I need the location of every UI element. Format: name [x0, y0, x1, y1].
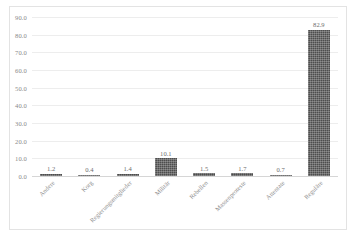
bar-value-label: 1.5 — [200, 165, 208, 172]
x-axis-tick-label: Andere — [38, 179, 56, 197]
y-axis-tick-label: 20.0 — [15, 137, 27, 144]
x-axis-label-slot: Massenproteste — [223, 176, 261, 230]
y-axis-tick-label: 40.0 — [15, 102, 27, 109]
bar[interactable] — [308, 30, 330, 176]
y-axis-tick-label: 0.0 — [18, 173, 27, 180]
x-axis-tick-label: Korg — [80, 179, 94, 193]
bar-value-label: 0.7 — [277, 166, 285, 173]
y-axis-tick-label: 90.0 — [15, 14, 27, 21]
bar-chart-figure: 0.010.020.030.040.050.060.070.080.090.0 … — [0, 0, 356, 242]
y-axis-tick-label: 30.0 — [15, 120, 27, 127]
y-axis-tick-label: 80.0 — [15, 31, 27, 38]
bar-value-label: 1.7 — [238, 165, 246, 172]
bar-value-label: 0.4 — [85, 166, 93, 173]
x-axis-label-slot: Militär — [147, 176, 185, 230]
bar-group[interactable]: 0.4 — [70, 17, 108, 176]
x-axis-label-slot: Attentate — [262, 176, 300, 230]
x-axis-label-slot: Regierungsmitglieder — [109, 176, 147, 230]
plot-area: 1.20.41.410.11.51.70.782.9 — [32, 17, 338, 176]
x-axis-category-labels: AndereKorgRegierungsmitgliederMilitärReb… — [32, 176, 338, 230]
bar-value-label: 1.4 — [124, 165, 132, 172]
y-axis-tick-label: 60.0 — [15, 67, 27, 74]
y-axis: 0.010.020.030.040.050.060.070.080.090.0 — [0, 17, 30, 176]
bar[interactable] — [155, 158, 177, 176]
x-axis-tick-label: Militär — [153, 179, 171, 197]
y-axis-tick-label: 70.0 — [15, 49, 27, 56]
bars-layer: 1.20.41.410.11.51.70.782.9 — [32, 17, 338, 176]
bar-group[interactable]: 82.9 — [300, 17, 338, 176]
x-axis-tick-label: Rebellen — [188, 179, 209, 200]
x-axis-tick-label: Reguläre — [302, 179, 324, 201]
bar-group[interactable]: 1.5 — [185, 17, 223, 176]
bar-value-label: 1.2 — [47, 165, 55, 172]
x-axis-label-slot: Reguläre — [300, 176, 338, 230]
bar-value-label: 10.1 — [160, 150, 172, 157]
y-axis-tick-label: 10.0 — [15, 155, 27, 162]
bar-group[interactable]: 1.2 — [32, 17, 70, 176]
bar-group[interactable]: 10.1 — [147, 17, 185, 176]
y-axis-tick-label: 50.0 — [15, 84, 27, 91]
x-axis-label-slot: Andere — [32, 176, 70, 230]
x-axis-tick-label: Attentate — [264, 179, 286, 201]
bar-value-label: 82.9 — [313, 21, 325, 28]
bar-group[interactable]: 1.4 — [109, 17, 147, 176]
bar-group[interactable]: 0.7 — [262, 17, 300, 176]
bar-group[interactable]: 1.7 — [223, 17, 261, 176]
